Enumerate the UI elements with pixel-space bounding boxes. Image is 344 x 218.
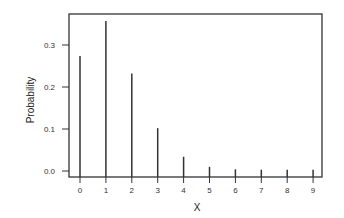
x-tick-label: 6 (233, 186, 238, 195)
x-tick-label: 7 (259, 186, 264, 195)
x-axis-title: X (194, 202, 201, 213)
x-axis: 0123456789 (78, 177, 316, 195)
y-axis-title: Probability (25, 77, 36, 124)
y-axis: 0.00.10.20.3 (44, 41, 69, 176)
y-tick-label: 0.3 (44, 41, 56, 50)
stems (80, 21, 313, 177)
probability-stem-chart: 0.00.10.20.3 0123456789 X Probability (0, 0, 344, 218)
x-tick-label: 9 (311, 186, 316, 195)
x-tick-label: 8 (285, 186, 290, 195)
y-tick-label: 0.2 (44, 83, 56, 92)
y-tick-label: 0.0 (44, 167, 56, 176)
x-tick-label: 1 (104, 186, 109, 195)
y-tick-label: 0.1 (44, 125, 56, 134)
x-tick-label: 0 (78, 186, 83, 195)
x-tick-label: 3 (155, 186, 160, 195)
x-tick-label: 5 (207, 186, 212, 195)
plot-frame (69, 14, 322, 177)
x-tick-label: 2 (130, 186, 135, 195)
x-tick-label: 4 (181, 186, 186, 195)
